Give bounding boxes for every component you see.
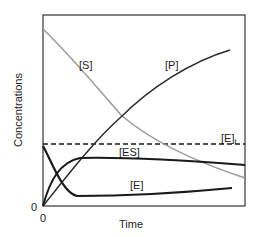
x-origin-tick: 0 — [40, 212, 46, 224]
y-axis-label: Concentrations — [12, 73, 24, 147]
chart: [S] [P] [ES] [E] [E]t Time Concentration… — [0, 0, 257, 237]
plot-frame — [43, 15, 245, 206]
label-S: [S] — [79, 59, 92, 71]
y-origin-tick: 0 — [31, 201, 37, 213]
series-S-line — [43, 29, 245, 178]
label-E: [E] — [130, 179, 143, 191]
label-ES: [ES] — [119, 146, 140, 158]
series-ES-line — [43, 158, 245, 206]
x-axis-label: Time — [119, 218, 143, 230]
label-P: [P] — [165, 59, 178, 71]
label-Et: [E]t — [221, 132, 236, 145]
